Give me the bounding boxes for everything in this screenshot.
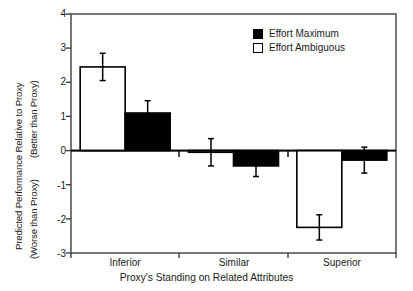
chart-legend: Effort Maximum Effort Ambiguous (253, 27, 345, 55)
legend-item-effort-maximum: Effort Maximum (253, 27, 345, 40)
x-tick-label-superior: Superior (323, 258, 361, 268)
x-tick-label-inferior: Inferior (109, 258, 140, 268)
legend-label: Effort Ambiguous (269, 43, 345, 53)
bar-chart-figure: Predicted Performance Relative to Proxy … (0, 0, 413, 291)
filled-square-icon (253, 29, 263, 39)
legend-item-effort-ambiguous: Effort Ambiguous (253, 41, 345, 54)
x-tick-label-similar: Similar (219, 258, 250, 268)
open-square-icon (253, 43, 263, 53)
x-axis-title: Proxy's Standing on Related Attributes (0, 272, 413, 283)
legend-label: Effort Maximum (269, 29, 339, 39)
plot-area (0, 0, 413, 291)
